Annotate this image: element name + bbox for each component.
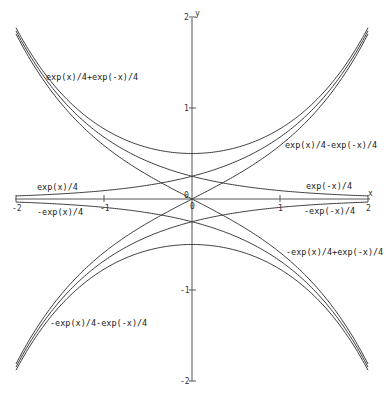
y-tick-label: 1 — [184, 104, 189, 113]
x-tick-label: -2 — [12, 204, 22, 213]
x-tick-label: -1 — [100, 204, 110, 213]
curve-label: -exp(x)/4+exp(-x)/4 — [286, 247, 383, 257]
x-axis-label: x — [368, 189, 373, 198]
function-plot: x y -2-11200-2-112 exp(x)/4-exp(x)/4exp(… — [0, 0, 386, 396]
y-tick-label: 2 — [184, 13, 189, 22]
y-tick-label: -2 — [180, 377, 190, 386]
y-tick-label: -1 — [180, 286, 190, 295]
x-tick-label: 0 — [190, 202, 195, 211]
x-tick-label: 1 — [278, 204, 283, 213]
curve-label: exp(x)/4 — [37, 182, 78, 192]
x-tick-label: 2 — [366, 204, 371, 213]
curve-label: -exp(x)/4-exp(-x)/4 — [50, 318, 147, 328]
curve-labels: exp(x)/4-exp(x)/4exp(-x)/4-exp(-x)/4exp(… — [37, 72, 383, 328]
curve-label: exp(x)/4+exp(-x)/4 — [46, 72, 138, 82]
curve-label: exp(-x)/4 — [306, 181, 352, 191]
curve-label: -exp(-x)/4 — [304, 206, 355, 216]
curve-label: exp(x)/4-exp(-x)/4 — [285, 140, 377, 150]
curve-label: -exp(x)/4 — [37, 207, 83, 217]
